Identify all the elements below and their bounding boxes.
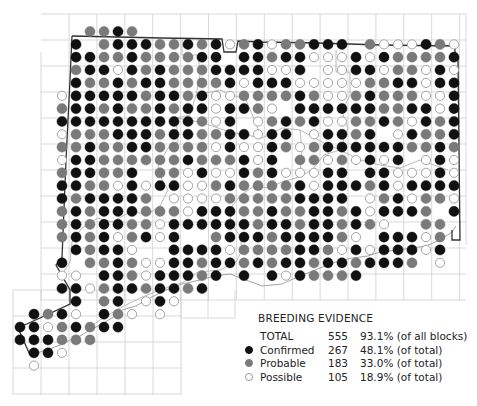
dot-possible (337, 91, 346, 100)
dot-possible (421, 78, 430, 87)
dot-probable (169, 142, 179, 152)
dot-possible (169, 297, 178, 306)
dot-confirmed (155, 271, 165, 281)
dot-probable (169, 52, 179, 62)
dot-probable (57, 232, 67, 242)
dot-probable (239, 258, 249, 268)
dot-probable (435, 52, 445, 62)
dot-confirmed (253, 258, 263, 268)
legend-title: BREEDING EVIDENCE (258, 312, 373, 325)
dot-possible (337, 65, 346, 74)
dot-probable (85, 245, 95, 255)
dot-confirmed (225, 219, 235, 229)
dot-confirmed (71, 322, 81, 332)
dot-probable (435, 193, 445, 203)
dot-probable (57, 168, 67, 178)
dot-confirmed (253, 232, 263, 242)
dot-confirmed (71, 296, 81, 306)
dot-confirmed (309, 193, 319, 203)
dot-confirmed (435, 245, 445, 255)
probable-swatch-icon (245, 359, 253, 367)
dot-probable (169, 168, 179, 178)
dot-possible (309, 78, 318, 87)
dot-confirmed (323, 142, 333, 152)
dot-probable (141, 52, 151, 62)
dot-probable (267, 258, 277, 268)
dot-probable (407, 91, 417, 101)
dot-probable (197, 129, 207, 139)
dot-confirmed (323, 104, 333, 114)
dot-confirmed (351, 206, 361, 216)
dot-confirmed (85, 155, 95, 165)
dot-probable (407, 65, 417, 75)
dot-confirmed (435, 155, 445, 165)
dot-confirmed (99, 116, 109, 126)
dot-confirmed (407, 232, 417, 242)
dot-possible (71, 310, 80, 319)
dot-confirmed (57, 181, 67, 191)
dot-possible (239, 78, 248, 87)
dot-probable (337, 232, 347, 242)
dot-confirmed (449, 116, 459, 126)
dot-confirmed (127, 142, 137, 152)
dot-probable (365, 116, 375, 126)
dot-confirmed (29, 335, 39, 345)
dot-probable (379, 91, 389, 101)
dot-possible (407, 194, 416, 203)
dot-possible (337, 78, 346, 87)
dot-probable (99, 181, 109, 191)
dot-possible (169, 194, 178, 203)
dot-possible (449, 40, 458, 49)
dot-possible (449, 194, 458, 203)
dot-probable (421, 129, 431, 139)
dot-confirmed (211, 39, 221, 49)
dot-probable (127, 104, 137, 114)
dot-probable (169, 78, 179, 88)
dot-confirmed (113, 193, 123, 203)
dot-confirmed (99, 245, 109, 255)
dot-confirmed (253, 78, 263, 88)
dot-confirmed (127, 283, 137, 293)
legend-probable-label: Probable (260, 357, 306, 370)
dot-probable (85, 335, 95, 345)
dot-probable (337, 271, 347, 281)
dot-probable (57, 322, 67, 332)
dot-probable (57, 104, 67, 114)
dot-possible (379, 155, 388, 164)
dot-confirmed (85, 65, 95, 75)
dot-probable (407, 52, 417, 62)
dot-confirmed (141, 39, 151, 49)
dot-probable (309, 271, 319, 281)
dot-possible (309, 168, 318, 177)
dot-confirmed (43, 348, 53, 358)
dot-probable (141, 155, 151, 165)
dot-confirmed (239, 232, 249, 242)
dot-confirmed (337, 258, 347, 268)
dot-confirmed (407, 206, 417, 216)
dot-possible (323, 117, 332, 126)
dot-probable (309, 91, 319, 101)
dot-confirmed (281, 129, 291, 139)
dot-confirmed (183, 129, 193, 139)
dot-confirmed (211, 65, 221, 75)
dot-possible (379, 65, 388, 74)
dot-probable (253, 181, 263, 191)
dot-possible (57, 130, 66, 139)
dot-confirmed (379, 245, 389, 255)
dot-probable (323, 245, 333, 255)
dot-confirmed (267, 142, 277, 152)
dot-confirmed (253, 39, 263, 49)
dot-confirmed (323, 181, 333, 191)
dot-probable (57, 142, 67, 152)
dot-possible (421, 91, 430, 100)
dot-confirmed (309, 206, 319, 216)
dot-probable (281, 206, 291, 216)
legend-row-probable: Probable18333.0% (of total) (258, 357, 373, 371)
dot-confirmed (365, 65, 375, 75)
dot-confirmed (267, 129, 277, 139)
dot-possible (155, 220, 164, 229)
dot-confirmed (295, 104, 305, 114)
dot-probable (421, 52, 431, 62)
dot-confirmed (351, 52, 361, 62)
dot-probable (295, 39, 305, 49)
